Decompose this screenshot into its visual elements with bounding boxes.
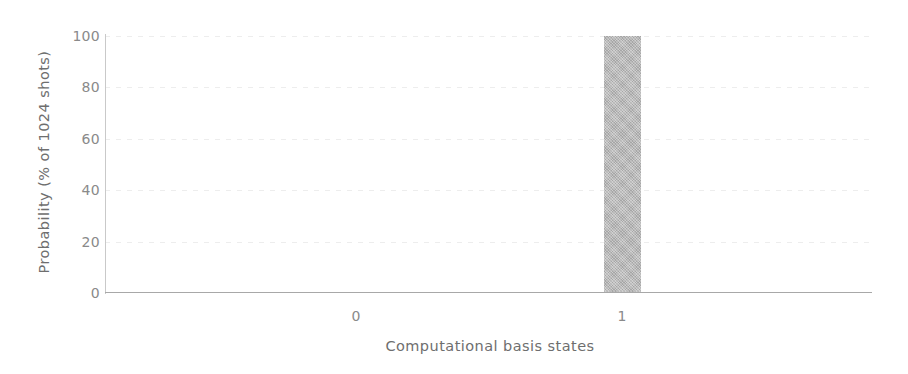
bar-chart-figure: Probability (% of 1024 shots) 100 80 60 … bbox=[0, 0, 908, 374]
bar-state-1 bbox=[604, 36, 641, 293]
gridline-40 bbox=[105, 190, 872, 191]
x-tick-label-0: 0 bbox=[336, 309, 376, 323]
y-tick-label-100: 100 bbox=[54, 29, 100, 43]
y-tick-label-40: 40 bbox=[54, 183, 100, 197]
x-axis-title: Computational basis states bbox=[295, 338, 685, 354]
y-tick-label-0: 0 bbox=[54, 286, 100, 300]
y-axis-title: Probability (% of 1024 shots) bbox=[36, 17, 52, 307]
y-axis-line bbox=[105, 34, 106, 294]
y-tick-label-80: 80 bbox=[54, 80, 100, 94]
plot-area bbox=[105, 36, 872, 293]
gridline-80 bbox=[105, 87, 872, 88]
gridline-100 bbox=[105, 36, 872, 37]
y-tick-label-60: 60 bbox=[54, 132, 100, 146]
gridline-60 bbox=[105, 139, 872, 140]
y-tick-label-20: 20 bbox=[54, 235, 100, 249]
x-tick-label-1: 1 bbox=[602, 309, 642, 323]
x-axis-line bbox=[105, 292, 872, 293]
gridline-20 bbox=[105, 242, 872, 243]
